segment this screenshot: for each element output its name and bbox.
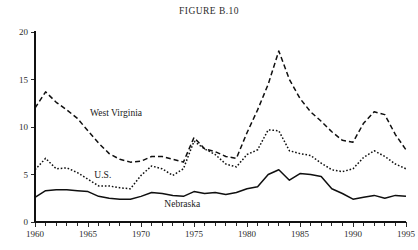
series-label-group: West VirginiaU.S.Nebraska [90,108,201,209]
series-label-west-virginia: West Virginia [90,108,143,118]
x-tick-label: 1970 [132,229,151,239]
x-axis: 19601965197019751980198519901995 [26,222,416,239]
figure-container: FIGURE B.10 05101520 1960196519701975198… [0,0,418,250]
y-tick-label: 20 [19,27,29,37]
x-tick-label: 1985 [291,229,310,239]
x-tick-label: 1990 [344,229,363,239]
series-line-west-virginia [35,51,406,162]
line-chart-plot: 05101520 1960196519701975198019851990199… [0,0,418,250]
series-line-nebraska [35,170,406,199]
y-tick-label: 10 [19,122,29,132]
series-label-u-s: U.S. [94,170,111,180]
y-tick-label: 5 [24,170,29,180]
series-label-nebraska: Nebraska [164,199,201,209]
series-line-u-s [35,130,406,189]
series-group [35,51,406,199]
x-tick-label: 1975 [185,229,204,239]
x-tick-label: 1960 [26,229,45,239]
y-tick-group: 05101520 [19,27,35,227]
y-axis: 05101520 [19,27,35,227]
y-tick-label: 0 [24,217,29,227]
x-tick-label: 1965 [79,229,98,239]
x-tick-label: 1995 [397,229,416,239]
x-tick-label: 1980 [238,229,257,239]
x-tick-group: 19601965197019751980198519901995 [26,222,416,239]
y-tick-label: 15 [19,75,29,85]
